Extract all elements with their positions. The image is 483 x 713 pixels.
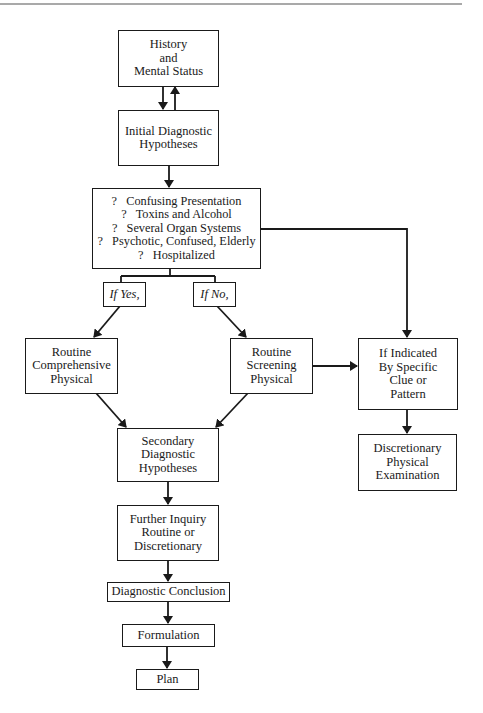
- node-plan: Plan: [136, 669, 199, 690]
- node-text: Clue or: [389, 374, 426, 388]
- node-text: Routine: [252, 346, 292, 360]
- node-text: Initial Diagnostic: [125, 125, 212, 139]
- node-text: Formulation: [138, 629, 200, 643]
- node-text: Diagnostic: [141, 448, 195, 462]
- node-if-indicated: If Indicated By Specific Clue or Pattern: [358, 338, 458, 410]
- node-text: Hypotheses: [139, 462, 197, 476]
- node-text: Comprehensive: [32, 359, 110, 373]
- node-routine-comprehensive-physical: Routine Comprehensive Physical: [25, 338, 118, 394]
- node-text: Discretionary: [373, 442, 441, 456]
- node-text: and: [159, 52, 177, 66]
- flowchart-canvas: History and Mental Status Initial Diagno…: [0, 0, 483, 713]
- node-text: If Yes,: [109, 288, 139, 302]
- question-item: ? Toxins and Alcohol: [121, 208, 232, 222]
- node-text: Examination: [376, 469, 440, 483]
- node-secondary-diagnostic-hypotheses: Secondary Diagnostic Hypotheses: [117, 428, 219, 482]
- question-item: ? Hospitalized: [138, 249, 215, 263]
- arrow-comprehensive-to-secondary: [96, 393, 126, 427]
- arrow-yes-to-comprehensive: [94, 306, 120, 337]
- node-text: Pattern: [390, 388, 425, 402]
- node-text: Discretionary: [134, 540, 202, 554]
- node-text: Secondary: [142, 435, 195, 449]
- arrow-no-to-screening: [217, 306, 246, 337]
- node-text: Physical: [50, 373, 92, 387]
- node-formulation: Formulation: [122, 624, 215, 647]
- node-text: Screening: [247, 359, 297, 373]
- question-item: ? Psychotic, Confused, Elderly: [97, 235, 255, 249]
- node-text: Plan: [156, 673, 178, 687]
- node-text: History: [150, 38, 188, 52]
- node-text: Physical: [250, 373, 292, 387]
- node-text: Diagnostic Conclusion: [111, 585, 225, 599]
- node-initial-diagnostic-hypotheses: Initial Diagnostic Hypotheses: [118, 110, 219, 166]
- arrow-screening-to-secondary: [216, 393, 248, 427]
- node-text: If No,: [200, 288, 228, 302]
- node-screening-questions: ? Confusing Presentation ? Toxins and Al…: [92, 188, 261, 269]
- question-item: ? Several Organ Systems: [112, 222, 241, 236]
- node-text: Hypotheses: [139, 138, 197, 152]
- arrow-questions-to-indicated: [260, 229, 407, 337]
- node-if-no: If No,: [193, 282, 236, 307]
- node-text: Physical: [386, 456, 428, 470]
- node-further-inquiry: Further Inquiry Routine or Discretionary: [117, 505, 219, 561]
- node-if-yes: If Yes,: [103, 282, 146, 307]
- node-text: Routine or: [141, 526, 194, 540]
- node-text: Routine: [52, 346, 92, 360]
- node-text: If Indicated: [379, 347, 437, 361]
- node-history-mental-status: History and Mental Status: [118, 30, 219, 87]
- node-text: Mental Status: [134, 65, 203, 79]
- node-discretionary-physical-examination: Discretionary Physical Examination: [358, 434, 457, 491]
- node-diagnostic-conclusion: Diagnostic Conclusion: [107, 582, 230, 602]
- node-text: By Specific: [379, 361, 438, 375]
- node-routine-screening-physical: Routine Screening Physical: [230, 338, 313, 394]
- node-text: Further Inquiry: [130, 513, 207, 527]
- question-item: ? Confusing Presentation: [112, 195, 242, 209]
